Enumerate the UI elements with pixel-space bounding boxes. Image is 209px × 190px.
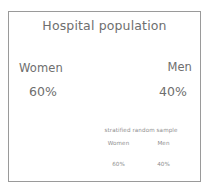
table-header-row: Women Men [96,140,186,154]
slide-canvas: Hospital population Women 60% Men 40% st… [0,0,209,190]
sample-header-women: Women [96,140,141,154]
sample-header-men: Men [141,140,186,154]
sample-table: Women Men 60% 40% [96,140,186,167]
sample-value-women: 60% [96,154,141,167]
population-group-label-men: Men [0,60,192,74]
table-row: 60% 40% [96,154,186,167]
sample-block: stratified random sample Women Men 60% 4… [96,127,186,167]
sample-value-men: 40% [141,154,186,167]
page-title: Hospital population [0,18,209,33]
population-value-men: 40% [0,84,187,99]
sample-caption: stratified random sample [96,127,186,133]
